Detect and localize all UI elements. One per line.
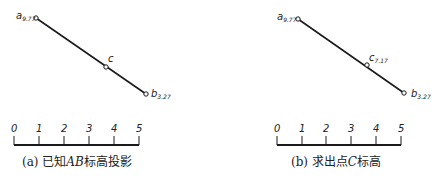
- caption-b: (b) 求出点C标高: [291, 152, 381, 169]
- label-a-a: a9.77: [16, 10, 36, 22]
- scale-bar-b: 0 1 2 3 4 5: [274, 123, 404, 145]
- scale-tick-label: 4: [373, 123, 379, 134]
- scale-tick-label: 1: [299, 123, 305, 134]
- scale-tick-label: 5: [398, 123, 404, 134]
- figure-b: a9.77 c7.17 b3.27 0 1 2 3 4 5: [274, 11, 431, 145]
- scale-tick-label: 2: [323, 123, 329, 134]
- caption-a: (a) 已知AB标高投影: [22, 152, 132, 169]
- scale-tick-label: 1: [36, 123, 42, 134]
- scale-tick-label: 0: [11, 123, 17, 134]
- label-a-b: a9.77: [277, 11, 297, 23]
- label-b-a: b3.27: [151, 88, 171, 100]
- label-b-b: b3.27: [411, 88, 431, 100]
- label-c-b: c7.17: [369, 52, 388, 64]
- point-c-a: [104, 65, 108, 69]
- point-b-a: [144, 92, 148, 96]
- scale-tick-label: 0: [274, 123, 280, 134]
- point-c-b: [365, 63, 369, 67]
- line-ab-a: [36, 18, 146, 94]
- scale-tick-label: 4: [111, 123, 117, 134]
- scale-tick-label: 5: [136, 123, 142, 134]
- label-c-a: c: [108, 53, 114, 64]
- line-ab-b: [298, 19, 404, 93]
- scale-tick-label: 3: [348, 123, 354, 134]
- figure-a: a9.77 c b3.27 0 1 2 3 4 5: [11, 10, 171, 145]
- scale-bar-a: 0 1 2 3 4 5: [11, 123, 142, 145]
- scale-tick-label: 2: [61, 123, 67, 134]
- point-b-b: [402, 91, 406, 95]
- scale-tick-label: 3: [86, 123, 92, 134]
